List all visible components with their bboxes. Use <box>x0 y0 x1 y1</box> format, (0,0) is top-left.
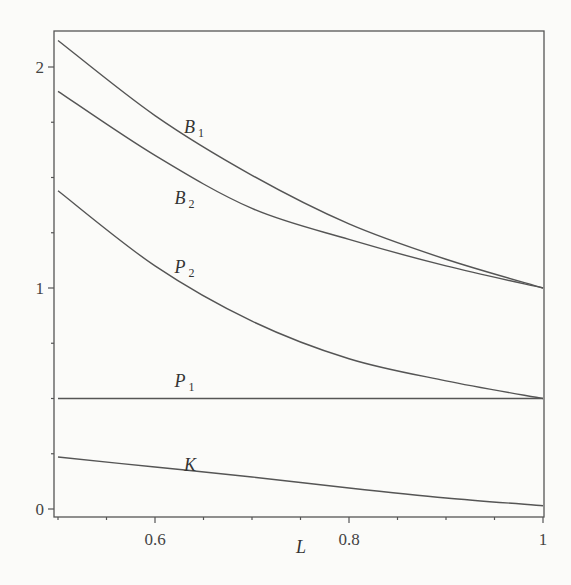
chart: 0.60.81012 B1B2P2P1K L <box>0 0 571 585</box>
x-tick-label: 0.8 <box>338 530 359 549</box>
curve-b1 <box>58 40 543 288</box>
label-b2: B2 <box>174 188 194 211</box>
label-b1: B1 <box>184 117 204 140</box>
label-k: K <box>183 455 197 475</box>
y-tick-label: 0 <box>36 500 45 519</box>
x-axis-title: L <box>295 537 306 557</box>
curve-p2 <box>58 191 543 399</box>
curve-labels: B1B2P2P1K <box>173 117 204 475</box>
plot-frame <box>54 31 544 517</box>
curves <box>58 40 543 505</box>
y-tick-label: 2 <box>36 58 45 77</box>
y-tick-label: 1 <box>36 279 45 298</box>
label-p2: P2 <box>173 257 194 280</box>
label-p1: P1 <box>173 371 194 394</box>
axes: 0.60.81012 <box>36 58 548 549</box>
x-tick-label: 0.6 <box>144 530 165 549</box>
curve-b2 <box>58 91 543 288</box>
curve-k <box>58 457 543 506</box>
x-tick-label: 1 <box>539 530 548 549</box>
